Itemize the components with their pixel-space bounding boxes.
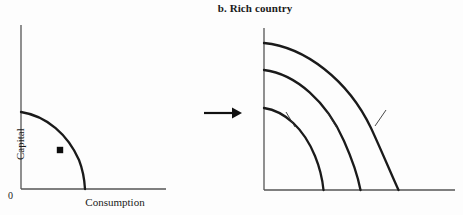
leader-line-2010 [375, 110, 386, 126]
leader-line-1990 [286, 112, 295, 127]
panel-right: Capital Consumption 0 1990 1995 2010 [232, 0, 463, 215]
panel-left-graphics [0, 0, 232, 215]
left-x-axis-label: Consumption [60, 196, 170, 208]
leader-line-1995 [327, 112, 337, 128]
figure-container: b. Rich country Capital Consumption 0 [0, 0, 463, 215]
panel-left: Capital Consumption 0 [0, 0, 232, 215]
panel-right-graphics [232, 0, 463, 215]
left-origin-label: 0 [8, 190, 13, 201]
ppf-curve-initial [21, 112, 85, 189]
ppf-curve-1990 [264, 108, 324, 190]
left-y-axis-label: Capital [14, 128, 26, 160]
chosen-point-marker [57, 147, 63, 153]
